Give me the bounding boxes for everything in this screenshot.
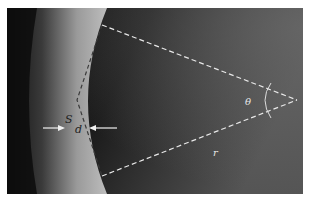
label-s: S <box>65 113 73 126</box>
label-theta: θ <box>245 96 251 107</box>
label-d: d <box>75 123 82 136</box>
diagram-figure: S d θ r <box>7 8 303 194</box>
diagram-canvas: S d θ r <box>7 8 303 194</box>
